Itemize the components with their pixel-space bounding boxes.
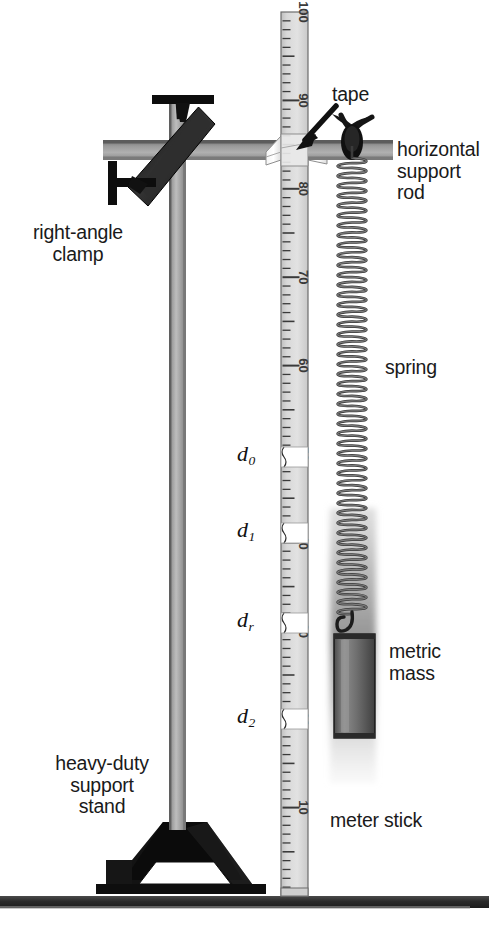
distance-marker-d0: d0 [237,443,255,468]
label-heavy-duty-support-stand: heavy-duty support stand [18,753,186,818]
distance-marker-dr: dr [237,609,253,634]
label-spring: spring [385,357,437,379]
meter-stick-number: 10 [296,800,311,814]
meter-stick-number: 70 [296,270,311,284]
distance-marker-symbol: d [237,441,248,466]
apparatus-diagram: 100908070605040302010 [0,0,489,943]
distance-marker-subscript: 1 [249,529,256,544]
distance-marker-subscript: 2 [249,715,256,730]
metric-mass-cylinder [334,634,375,738]
tripod-base [96,822,266,894]
meter-stick-foot [281,888,308,896]
tape-band [281,447,308,467]
label-meter-stick: meter stick [330,810,422,832]
distance-marker-symbol: d [237,607,248,632]
meter-stick-number: 90 [296,93,311,107]
distance-marker-subscript: 0 [249,453,256,468]
meter-stick-number: 60 [296,358,311,372]
meter-stick-number: 100 [296,1,311,23]
tape-band [281,709,308,729]
vertical-support-rod [169,96,186,830]
label-metric-mass: metric mass [389,641,485,684]
distance-marker-subscript: r [249,619,254,634]
meter-stick-number: 80 [296,182,311,196]
tape-band [281,613,308,633]
distance-marker-symbol: d [237,703,248,728]
distance-marker-d1: d1 [237,519,255,544]
tape-band [281,523,308,543]
distance-marker-d2: d2 [237,705,255,730]
label-right-angle-clamp: right-angle clamp [4,222,152,265]
distance-marker-symbol: d [237,517,248,542]
label-horizontal-support-rod: horizontal support rod [397,139,489,204]
table-surface [0,896,489,909]
label-tape: tape [332,84,369,106]
